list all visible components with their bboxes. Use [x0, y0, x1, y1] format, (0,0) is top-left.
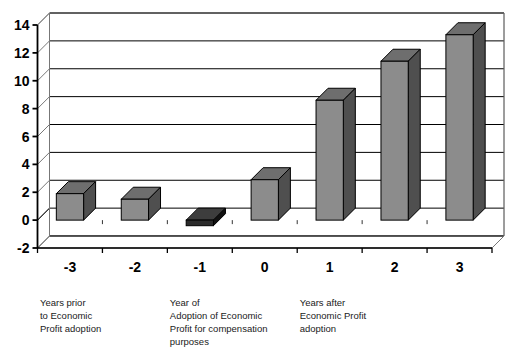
- y-tick-label: 6: [22, 129, 30, 145]
- y-tick-label: 10: [14, 73, 30, 89]
- annotation-line: Year of: [170, 297, 200, 308]
- x-tick-label: -3: [64, 259, 77, 275]
- bar-side-face: [408, 49, 420, 220]
- annotation-line: to Economic: [40, 310, 93, 321]
- annotation-line: Years prior: [40, 297, 86, 308]
- bar-3: [446, 23, 485, 220]
- annotation-line: Adoption of Economic: [170, 310, 263, 321]
- annotation-line: purposes: [170, 336, 209, 347]
- bar-front-face: [251, 180, 278, 220]
- y-tick-label: 12: [14, 45, 30, 61]
- plot-floor: [38, 236, 505, 248]
- bar-chart-3d: -202468101214 -3-2-10123 Years priorto E…: [0, 0, 518, 358]
- x-axis-tick-labels: -3-2-10123: [64, 259, 464, 275]
- annotation-years-prior: Years priorto EconomicProfit adoption: [40, 297, 101, 334]
- chart-container: -202468101214 -3-2-10123 Years priorto E…: [0, 0, 518, 358]
- bar-side-face: [343, 88, 355, 220]
- x-tick-label: 1: [326, 259, 334, 275]
- y-tick-label: 14: [14, 17, 30, 33]
- x-tick-label: 0: [261, 259, 269, 275]
- x-tick-label: 3: [456, 259, 464, 275]
- annotation-years-after: Years afterEconomic Profitadoption: [300, 297, 367, 334]
- x-tick-label: -2: [129, 259, 142, 275]
- bar-front-face: [56, 194, 83, 220]
- annotation-line: Economic Profit: [300, 310, 367, 321]
- bar-front-face: [121, 199, 148, 220]
- y-tick-label: 8: [22, 101, 30, 117]
- bar-front-face: [446, 35, 473, 220]
- y-tick-label: 0: [22, 212, 30, 228]
- bar-0: [251, 168, 290, 220]
- annotation-line: Profit adoption: [40, 323, 101, 334]
- bar-2: [381, 49, 420, 220]
- x-tick-label: -1: [194, 259, 207, 275]
- annotation-line: Profit for compensation: [170, 323, 268, 334]
- bar--3: [56, 182, 95, 220]
- bar-1: [316, 88, 355, 220]
- bar-side-face: [473, 23, 485, 220]
- x-tick-label: 2: [391, 259, 399, 275]
- y-tick-label: 2: [22, 184, 30, 200]
- annotation-year-of-adoption: Year ofAdoption of EconomicProfit for co…: [170, 297, 268, 347]
- y-tick-label: -2: [17, 240, 30, 256]
- annotation-line: Years after: [300, 297, 346, 308]
- chart-annotations: Years priorto EconomicProfit adoptionYea…: [40, 297, 367, 347]
- y-tick-label: 4: [22, 156, 30, 172]
- y-axis-tick-labels: -202468101214: [14, 17, 30, 256]
- bar-front-face: [381, 61, 408, 220]
- bar-front-face: [186, 220, 213, 226]
- bar-front-face: [316, 100, 343, 220]
- annotation-line: adoption: [300, 323, 336, 334]
